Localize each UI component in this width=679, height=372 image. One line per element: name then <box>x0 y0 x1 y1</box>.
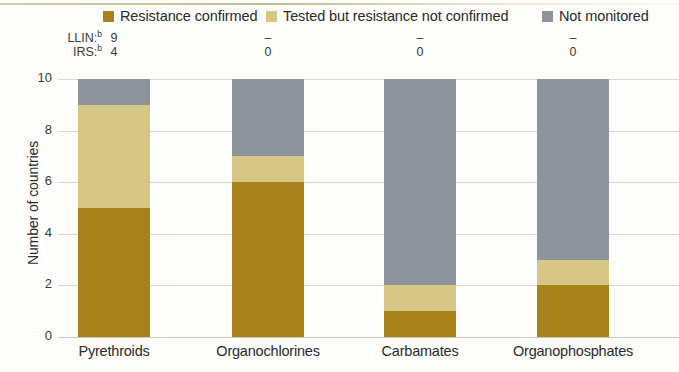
bar-segment-pyrethroids-resistance-confirmed[interactable] <box>78 208 150 337</box>
bar-segment-carbamates-tested-but-resistance-not-confirmed[interactable] <box>384 285 456 311</box>
bar-segment-carbamates-not-monitored[interactable] <box>384 79 456 285</box>
annotation-value-llin-organophosphates: – <box>558 31 588 45</box>
bar-segment-organochlorines-not-monitored[interactable] <box>232 79 304 156</box>
annotation-value-llin-carbamates: – <box>405 31 435 45</box>
bar-segment-organochlorines-tested-but-resistance-not-confirmed[interactable] <box>232 156 304 182</box>
annotation-value-irs-organochlorines: 0 <box>253 45 283 59</box>
annotation-value-llin-organochlorines: – <box>253 31 283 45</box>
bar-segment-organophosphates-tested-but-resistance-not-confirmed[interactable] <box>537 260 609 286</box>
annotation-value-irs-pyrethroids: 4 <box>99 45 129 59</box>
y-axis-tick-label-0: 0 <box>26 328 52 343</box>
annotation-value-llin-pyrethroids: 9 <box>99 31 129 45</box>
x-axis-tick-label-organophosphates: Organophosphates <box>483 343 663 359</box>
bar-segment-pyrethroids-tested-but-resistance-not-confirmed[interactable] <box>78 105 150 208</box>
bar-segment-carbamates-resistance-confirmed[interactable] <box>384 311 456 337</box>
bar-segment-organochlorines-resistance-confirmed[interactable] <box>232 182 304 337</box>
bar-segment-organophosphates-resistance-confirmed[interactable] <box>537 285 609 337</box>
bar-segment-pyrethroids-not-monitored[interactable] <box>78 79 150 105</box>
annotation-value-irs-organophosphates: 0 <box>558 45 588 59</box>
y-axis-title: Number of countries <box>25 78 41 328</box>
annotation-value-irs-carbamates: 0 <box>405 45 435 59</box>
insecticide-resistance-stacked-bar-chart: Resistance confirmed Tested but resistan… <box>0 0 679 372</box>
x-axis-tick-label-pyrethroids: Pyrethroids <box>24 343 204 359</box>
bar-segment-organophosphates-not-monitored[interactable] <box>537 79 609 260</box>
